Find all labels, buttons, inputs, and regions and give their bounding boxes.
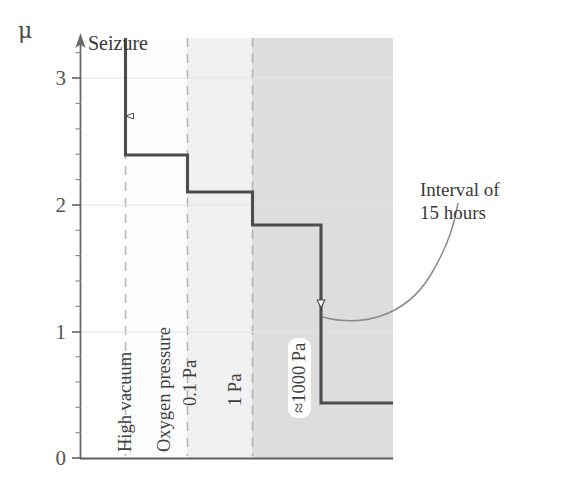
band-label-1pa: 1 Pa [225, 374, 246, 406]
band-label-oxygen-pressure-value: 0.1 Pa [180, 360, 201, 406]
band-label-oxygen-pressure: Oxygen pressure [154, 327, 175, 452]
figure-canvas: μ 3 2 1 0 High vacuum Oxygen pressure 0.… [0, 0, 562, 496]
band-label-1000pa: ≈1000 Pa [288, 338, 311, 418]
seizure-label: Seizure [88, 32, 148, 55]
y-tick-label-3: 3 [40, 66, 66, 91]
band-label-high-vacuum: High vacuum [115, 352, 136, 452]
y-tick-label-1: 1 [40, 320, 66, 345]
chart-svg [0, 0, 562, 496]
y-tick-label-2: 2 [40, 193, 66, 218]
y-axis-unit-label: μ [18, 18, 32, 43]
interval-callout-label: Interval of 15 hours [420, 178, 500, 224]
y-tick-label-0: 0 [40, 446, 66, 471]
